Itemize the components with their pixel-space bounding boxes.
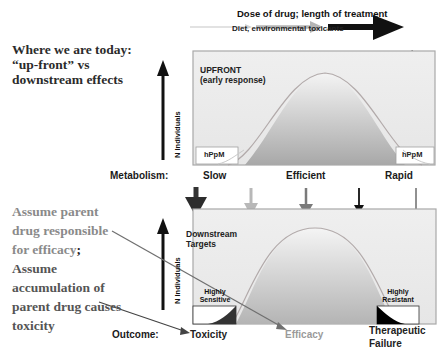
upfront-title-line1: UPFRONT <box>200 65 266 75</box>
failure-line1: Therapeutic <box>369 324 426 337</box>
note-line: toxicity <box>12 316 121 335</box>
highly-resistant-line1: Highly <box>377 288 419 296</box>
note-line: accumulation of <box>12 278 121 297</box>
note-line: Assume <box>12 259 121 278</box>
y-axis-label-bottom: N Individuals <box>173 257 182 304</box>
toxicity-assumption-note: Assume accumulation of parent drug cause… <box>12 259 121 335</box>
highly-sensitive-line1: Highly <box>194 288 236 296</box>
outcome-therapeutic-failure: Therapeutic Failure <box>369 324 426 350</box>
note-semicolon: ; <box>77 242 82 257</box>
left-title-line: “up-front” vs <box>12 57 132 72</box>
note-line: parent drug causes <box>12 297 121 316</box>
outcome-label: Outcome: <box>112 329 159 340</box>
failure-line2: Failure <box>369 337 426 350</box>
note-line: drug responsible <box>12 221 108 240</box>
highly-resistant-label: Highly Resistant <box>377 288 419 304</box>
y-axis-label-top: N Individuals <box>173 111 182 158</box>
upfront-title-line2: (early response) <box>200 75 266 85</box>
diet-label: Diet, environmental toxicants <box>232 24 344 33</box>
downstream-title-line2: Targets <box>186 239 237 249</box>
note-line: Assume parent <box>12 202 108 221</box>
left-title-line: Where we are today: <box>12 42 132 57</box>
downstream-title-line1: Downstream <box>186 229 237 239</box>
metabolism-slow: Slow <box>203 170 226 181</box>
highly-resistant-line2: Resistant <box>377 296 419 304</box>
outcome-toxicity: Toxicity <box>190 329 227 340</box>
left-title-line: downstream effects <box>12 72 132 87</box>
highly-sensitive-line2: Sensitive <box>194 296 236 304</box>
dose-label: Dose of drug; length of treatment <box>237 8 387 19</box>
metabolism-label: Metabolism: <box>110 170 168 181</box>
upfront-title: UPFRONT (early response) <box>200 65 266 85</box>
hppm-right-label: hPpM <box>402 150 422 159</box>
metabolism-efficient: Efficient <box>286 170 325 181</box>
left-title: Where we are today: “up-front” vs downst… <box>12 42 132 87</box>
highly-sensitive-label: Highly Sensitive <box>194 288 236 304</box>
efficacy-assumption-note: Assume parent drug responsible for effic… <box>12 202 108 259</box>
hppm-left-label: hPpM <box>204 150 224 159</box>
metabolism-rapid: Rapid <box>385 170 413 181</box>
outcome-efficacy: Efficacy <box>285 329 323 340</box>
downstream-title: Downstream Targets <box>186 229 237 249</box>
note-line: for efficacy <box>12 242 77 257</box>
